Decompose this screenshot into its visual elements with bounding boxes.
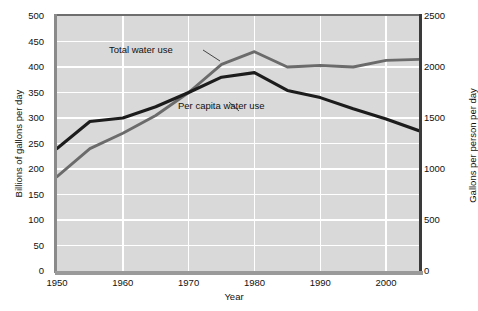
y-axis-left-title: Billions of gallons per day: [13, 54, 24, 234]
annotation-per-capita-water-use: Per capita water use: [178, 100, 265, 111]
x-tick-1970: 1970: [169, 277, 209, 288]
x-tick-1990: 1990: [300, 277, 340, 288]
x-tick-2000: 2000: [366, 277, 406, 288]
x-tick-1960: 1960: [103, 277, 143, 288]
y-axis-right-title: Gallons per person per day: [467, 56, 478, 236]
annotation-total-water-use: Total water use: [109, 44, 173, 55]
x-tick-1950: 1950: [37, 277, 77, 288]
x-axis-title: Year: [0, 291, 468, 302]
x-tick-1980: 1980: [234, 277, 274, 288]
